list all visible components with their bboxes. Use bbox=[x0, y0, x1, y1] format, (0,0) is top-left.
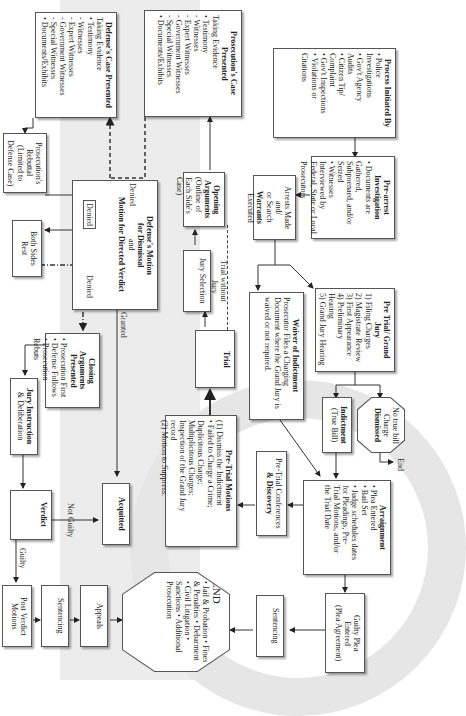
node-title: Warrants bbox=[255, 180, 264, 235]
list-item: • Bail Set bbox=[359, 485, 368, 570]
list-item: Penalties bbox=[192, 589, 201, 618]
node-sentencing-right: Sentencing bbox=[256, 595, 284, 657]
node-title: Waiver of Indictment bbox=[291, 297, 300, 415]
list-item: • Plea Entered bbox=[369, 485, 378, 570]
node-text: Prosecution's bbox=[34, 138, 43, 188]
node-text: Charge bbox=[382, 414, 391, 437]
list-item: • Civil Litigation bbox=[183, 581, 192, 635]
trial-without-jury-label-2: Jury bbox=[210, 280, 219, 294]
list-item: 2) Magistrate Review bbox=[354, 293, 363, 367]
list-item: • Gov't Inspections bbox=[319, 53, 328, 133]
node-title: Pre Trial/ Grand Jury bbox=[373, 293, 391, 367]
node-text: Prosecutor Files a Charging Document whe… bbox=[263, 297, 291, 415]
list-item: Audits bbox=[346, 53, 355, 133]
node-text: Motions bbox=[10, 590, 19, 642]
node-title: for Dismissal bbox=[136, 185, 145, 305]
node-both-sides-rest: Both Sides Rest bbox=[12, 220, 42, 277]
node-closing-arguments: Closing Arguments Presented • Prosecutio… bbox=[45, 333, 100, 408]
node-pre-arrest-investigation: Pre-arrest Investigation • Documents are… bbox=[311, 156, 395, 239]
list-item: • Witnesses Interviewed by bbox=[318, 161, 336, 234]
trial-without-jury-label: Trial without bbox=[219, 260, 228, 302]
node-title: Acquitted bbox=[117, 488, 126, 540]
list-item: 5) Grand Jury Hearing bbox=[318, 293, 327, 367]
list-item: - Witnesses bbox=[76, 17, 85, 113]
node-text: Jury Selection bbox=[198, 255, 207, 307]
node-title: Defense's Motion bbox=[145, 185, 154, 305]
list-item: Duplicitous Charge; bbox=[196, 420, 205, 542]
node-title: Verdict bbox=[39, 495, 48, 535]
node-text: & Deliberation bbox=[16, 383, 25, 450]
label-text: Trial without bbox=[219, 260, 228, 302]
list-item: • Testimony bbox=[201, 15, 210, 112]
list-item: • Violations or bbox=[309, 53, 318, 133]
list-item: - Special Witnesses bbox=[165, 15, 174, 112]
list-item: • Jail & Probation bbox=[201, 581, 210, 638]
list-item: Subpoenaed, and/or Seized bbox=[336, 161, 354, 234]
list-item: • Defense Follows bbox=[50, 338, 59, 403]
node-trial: Trial bbox=[195, 330, 235, 388]
list-item: - Expert Witnesses bbox=[183, 15, 192, 112]
node-prosecution-rebuttal: Prosecution's Rebuttal (Limited to Defen… bbox=[3, 133, 47, 193]
node-text: Rest bbox=[20, 225, 29, 272]
node-text: Post Verdict bbox=[19, 590, 28, 642]
list-item: • Documents/Exhibits bbox=[155, 15, 164, 112]
node-title: Indictment bbox=[339, 402, 348, 448]
node-prosecution-case: Prosecution's Case Presented Taking Evid… bbox=[144, 10, 242, 117]
node-text: Sentencing bbox=[271, 600, 280, 652]
list-item: (2) Motion to Suppress. bbox=[160, 420, 169, 542]
node-title: Arguments bbox=[203, 177, 212, 222]
list-item: • Failed to Charge a Crime; bbox=[205, 420, 214, 542]
node-post-verdict-motions: Post Verdict Motions bbox=[2, 585, 32, 647]
node-text: Dismissed bbox=[373, 408, 382, 442]
list-item: Citations bbox=[300, 53, 309, 133]
edge-label-denied: Denied bbox=[128, 183, 137, 206]
node-arraignment: Arraignment • Plea Entered • Bail Set • … bbox=[303, 480, 391, 575]
list-item: the Trial Date bbox=[323, 485, 332, 570]
node-jury-selection: Jury Selection bbox=[183, 250, 211, 312]
edge-label-guilty: Guilty bbox=[18, 548, 27, 568]
node-title: END bbox=[210, 581, 223, 663]
node-acquitted: Acquitted bbox=[102, 483, 130, 545]
end-label: End bbox=[396, 458, 405, 471]
list-item: - Witnesses bbox=[192, 15, 201, 112]
list-item: for Pleadings, Pre- bbox=[341, 485, 350, 570]
node-no-true-bill: No true bill Charge Dismissed bbox=[358, 398, 404, 452]
node-process-initiated: Process Initiated By • Police Investigat… bbox=[273, 48, 396, 138]
node-text: No true bill bbox=[391, 407, 400, 444]
list-item: Inspection of the Grand Jury bbox=[178, 420, 187, 542]
edge-label-not-guilty: Not Guilty bbox=[66, 503, 75, 537]
node-verdict: Verdict bbox=[10, 490, 52, 540]
list-item: • Documents/Exhibits bbox=[40, 17, 49, 113]
list-item: • Testimony bbox=[85, 17, 94, 113]
node-pretrial-conferences: Pre-Trial Conferences & Discovery bbox=[256, 451, 287, 536]
list-item: • Additional bbox=[174, 614, 183, 653]
list-item: Multiplicitous Charges; bbox=[187, 420, 196, 542]
node-sentencing-left: Sentencing bbox=[41, 585, 69, 647]
list-item: • Gov't Agency bbox=[355, 53, 364, 133]
node-title: Motion for Directed Verdict bbox=[117, 185, 126, 305]
node-text: or Search bbox=[264, 180, 273, 235]
node-title: & Discovery bbox=[265, 456, 274, 531]
list-item: - Government Witnesses bbox=[58, 17, 67, 113]
list-item: 1) Filing Charges bbox=[363, 293, 372, 367]
list-item: Trial Motions, and/or bbox=[332, 485, 341, 570]
node-arrests-warrants: Arrests Made and/ or Search Warrants Exe… bbox=[253, 175, 296, 240]
list-item: - Expert Witnesses bbox=[67, 17, 76, 113]
node-title: Jury Instruction bbox=[25, 383, 34, 450]
list-item: - Special Witnesses bbox=[49, 17, 58, 113]
node-title: Closing Arguments Presented bbox=[68, 338, 96, 403]
node-text: Executed bbox=[246, 180, 255, 235]
edge-label-denied: Denied bbox=[85, 275, 94, 298]
list-item: Investigations bbox=[364, 53, 373, 133]
list-item: • Citizen Tip/ bbox=[337, 53, 346, 133]
list-item: • Debarment bbox=[192, 620, 201, 660]
node-title: Arraignment bbox=[378, 485, 387, 570]
list-item: Federal, State or Local bbox=[308, 161, 317, 234]
node-guilty-plea: Guilty Plea Entered (Plea Agreement) bbox=[325, 593, 365, 673]
node-opening-arguments: Opening Arguments (Outline of Each Side'… bbox=[183, 172, 225, 227]
edge-label-granted: Granted bbox=[119, 312, 128, 338]
node-text: (Limited to bbox=[15, 138, 24, 188]
list-item: 4) Preliminary Hearing bbox=[327, 293, 345, 367]
node-title: Process Initiated By bbox=[383, 53, 392, 133]
node-text: (Outline of Each Side's Case) bbox=[175, 177, 203, 222]
